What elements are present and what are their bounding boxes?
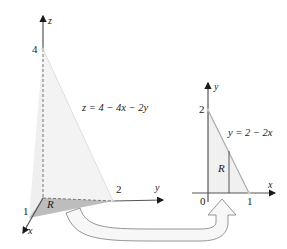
y-tick-2: 2 xyxy=(116,184,122,195)
x-tick-1: 1 xyxy=(23,206,29,217)
y-axis xyxy=(113,200,163,201)
x-axis-label: x xyxy=(28,226,32,236)
x-axis-label-2d: x xyxy=(268,180,272,190)
right-2d-figure xyxy=(192,83,275,202)
y-tick-2-2d: 2 xyxy=(199,104,205,115)
origin-label: 0 xyxy=(200,196,206,207)
z-axis-label: z xyxy=(48,16,52,26)
y-axis-label-2d: y xyxy=(214,82,218,92)
right-equation: y = 2 − 2x xyxy=(228,128,273,139)
left-equation: z = 4 − 4x − 2y xyxy=(82,103,148,114)
region-r-label-3d: R xyxy=(47,199,54,210)
y-axis-label: y xyxy=(155,183,159,193)
z-tick-4: 4 xyxy=(32,44,38,55)
diagram-graphics xyxy=(0,0,287,249)
left-3d-figure xyxy=(23,16,163,233)
double-integral-diagram: z 4 z = 4 − 4x − 2y 2 y R 1 x y 2 y = 2 … xyxy=(0,0,287,249)
x-tick-1-2d: 1 xyxy=(247,196,253,207)
region-r-label-2d: R xyxy=(218,163,225,174)
